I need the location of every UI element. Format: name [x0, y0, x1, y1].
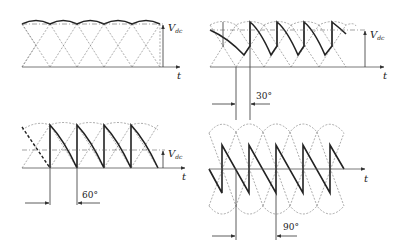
vdc-label: Vdc: [168, 148, 183, 160]
panel-c: Vdc t 60°: [22, 123, 187, 206]
panel-d: t 90°: [209, 124, 369, 240]
t-label: t: [383, 70, 388, 81]
firing-angle-label: 60°: [82, 190, 98, 200]
output-voltage-waveform: [22, 21, 160, 25]
panel-b: Vdc t 30°: [210, 22, 388, 121]
output-voltage-waveform: [50, 125, 158, 168]
t-label: t: [182, 171, 187, 182]
output-voltage-waveform: [210, 22, 346, 55]
t-label: t: [177, 70, 182, 81]
panel-a: Vdc t: [22, 21, 183, 82]
phase-voltage-dashed: [22, 123, 158, 169]
firing-angle-label: 90°: [283, 222, 299, 232]
firing-angle-label: 30°: [256, 91, 272, 101]
t-label: t: [364, 173, 369, 184]
vdc-label: Vdc: [370, 29, 385, 41]
vdc-label: Vdc: [168, 22, 183, 34]
phase-voltage-dashed: [22, 24, 160, 67]
rectifier-waveform-figure: Vdc t Vdc t 30°: [0, 0, 401, 249]
